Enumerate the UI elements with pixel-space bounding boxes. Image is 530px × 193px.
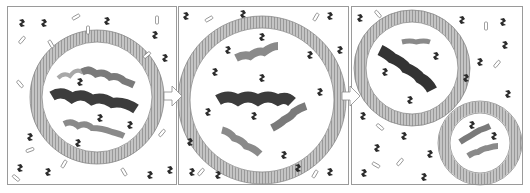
vesicle-1	[30, 30, 164, 164]
diagram-canvas	[0, 0, 530, 193]
vesicle-2	[178, 16, 346, 184]
vesicle-3a	[354, 10, 470, 126]
vesicle-3b	[438, 101, 522, 185]
